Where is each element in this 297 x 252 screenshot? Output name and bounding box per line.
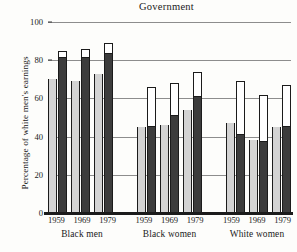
- bar: [170, 83, 179, 213]
- bar: [193, 72, 202, 213]
- bar-filled-segment: [184, 110, 191, 213]
- y-axis-tick-label: 40: [34, 132, 48, 142]
- bar-filled-segment: [250, 140, 257, 213]
- bar: [249, 140, 258, 213]
- x-group-years: 195919691979: [223, 215, 291, 225]
- bar-segment-divider: [82, 57, 89, 58]
- y-axis-tick-label: 100: [30, 17, 48, 27]
- bar-group: [137, 22, 202, 213]
- x-group-category: Black women: [136, 229, 204, 239]
- y-axis-tick-label: 80: [34, 55, 48, 65]
- bar: [236, 81, 245, 213]
- y-axis-tick-label: 20: [34, 170, 48, 180]
- x-axis-year-label: 1979: [274, 215, 291, 225]
- x-axis-year-labels: 195919691979195919691979195919691979: [48, 215, 291, 225]
- bar-segment-divider: [148, 126, 155, 127]
- bar-filled-segment: [237, 135, 244, 213]
- x-axis-year-label: 1959: [136, 215, 153, 225]
- x-group-category: Black men: [48, 229, 116, 239]
- chart-figure: Government Percentage of white men's ear…: [0, 0, 297, 252]
- bar-groups: [48, 22, 291, 213]
- bar: [259, 95, 268, 213]
- x-axis-category-label: Black men: [48, 229, 116, 239]
- bar: [137, 127, 146, 213]
- chart-title: Government: [0, 1, 297, 12]
- plot-area: 020406080100: [48, 22, 291, 213]
- bar-segment-divider: [105, 53, 112, 54]
- bar-segment-divider: [194, 96, 201, 97]
- bar: [71, 81, 80, 213]
- bar: [183, 110, 192, 213]
- x-axis-category-labels: Black menBlack womenWhite women: [48, 229, 291, 239]
- bar: [282, 85, 291, 213]
- bar: [94, 74, 103, 213]
- bar-filled-segment: [82, 58, 89, 213]
- bar: [160, 125, 169, 213]
- bar-filled-segment: [273, 127, 280, 213]
- y-axis-label: Percentage of white men's earnings: [20, 28, 30, 218]
- bar-filled-segment: [138, 127, 145, 213]
- y-axis-tick-label: 60: [34, 93, 48, 103]
- x-axis-year-label: 1959: [223, 215, 240, 225]
- x-axis: 195919691979195919691979195919691979 Bla…: [48, 215, 291, 252]
- bar-segment-divider: [171, 115, 178, 116]
- bar-filled-segment: [283, 127, 290, 213]
- bar-filled-segment: [161, 125, 168, 213]
- x-axis-year-label: 1979: [187, 215, 204, 225]
- bar: [226, 123, 235, 213]
- bar-segment-divider: [59, 57, 66, 58]
- x-axis-category-label: White women: [223, 229, 291, 239]
- bar-filled-segment: [148, 127, 155, 213]
- bar: [81, 49, 90, 213]
- bar-group: [48, 22, 113, 213]
- x-axis-category-label: Black women: [136, 229, 204, 239]
- bar-segment-divider: [260, 141, 267, 142]
- x-axis-year-label: 1969: [249, 215, 266, 225]
- bar-filled-segment: [49, 79, 56, 213]
- bar-filled-segment: [72, 81, 79, 213]
- bar: [58, 51, 67, 213]
- x-axis-year-label: 1979: [99, 215, 116, 225]
- bar-filled-segment: [171, 116, 178, 213]
- bar-filled-segment: [95, 74, 102, 213]
- bar: [272, 127, 281, 213]
- x-group-years: 195919691979: [136, 215, 204, 225]
- bar: [48, 79, 57, 213]
- bar-filled-segment: [105, 54, 112, 213]
- x-group-years: 195919691979: [48, 215, 116, 225]
- bar-filled-segment: [59, 58, 66, 213]
- bar-filled-segment: [227, 123, 234, 213]
- bar: [104, 43, 113, 213]
- x-axis-year-label: 1969: [161, 215, 178, 225]
- bar-filled-segment: [260, 142, 267, 213]
- bar-filled-segment: [194, 97, 201, 214]
- x-group-category: White women: [223, 229, 291, 239]
- bar-group: [226, 22, 291, 213]
- bar-segment-divider: [283, 126, 290, 127]
- bar-segment-divider: [237, 134, 244, 135]
- x-axis-year-label: 1959: [48, 215, 65, 225]
- x-axis-year-label: 1969: [74, 215, 91, 225]
- bar: [147, 87, 156, 213]
